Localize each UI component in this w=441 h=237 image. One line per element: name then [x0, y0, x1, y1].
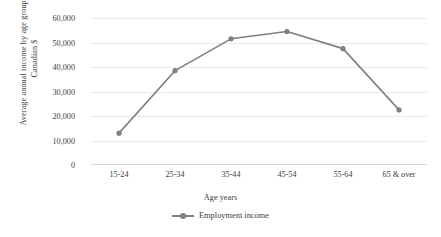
line-chart: Average annual income by age group in Ca… [0, 0, 441, 237]
data-point [340, 46, 345, 51]
series-employment-income [91, 18, 427, 165]
y-axis-tick-label: 20,000 [29, 112, 75, 121]
x-axis-tick-label: 55-64 [333, 170, 352, 179]
series-line [119, 31, 399, 133]
x-axis-tick-label: 45-54 [277, 170, 296, 179]
y-axis-tick-label: 40,000 [29, 63, 75, 72]
y-axis-tick-label: 60,000 [29, 14, 75, 23]
y-axis-tick-label: 0 [29, 161, 75, 170]
y-axis-tick-label: 10,000 [29, 136, 75, 145]
x-axis-tick-label: 35-44 [221, 170, 240, 179]
plot-area: 010,00020,00030,00040,00050,00060,000 15… [91, 18, 427, 165]
legend-marker-icon [172, 211, 194, 220]
data-point [284, 29, 289, 34]
y-axis-title-line1: Average annual income by age group in [19, 0, 28, 126]
y-axis-tick-label: 50,000 [29, 38, 75, 47]
chart-legend: Employment income [0, 211, 441, 220]
data-point [116, 131, 121, 136]
legend-item-label: Employment income [199, 211, 269, 220]
data-point [228, 36, 233, 41]
x-axis-title: Age years [0, 193, 441, 202]
x-axis-tick-label: 65 & over [382, 170, 415, 179]
data-point [172, 68, 177, 73]
y-axis-tick-label: 30,000 [29, 87, 75, 96]
x-axis-tick-label: 15-24 [109, 170, 128, 179]
x-axis-tick-label: 25-34 [165, 170, 184, 179]
data-point [396, 107, 401, 112]
